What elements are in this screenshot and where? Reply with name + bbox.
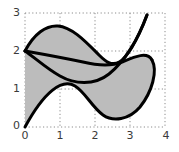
x-tick-label-0: 0 [22, 129, 29, 142]
y-tick-label-3: 3 [13, 6, 20, 19]
x-tick-label-1: 1 [57, 129, 64, 142]
y-tick-label-0: 0 [13, 119, 20, 132]
y-tick-labels: 3 2 1 0 [13, 6, 20, 132]
plot-root: 0 1 2 3 4 3 2 1 0 [0, 0, 179, 152]
x-tick-label-3: 3 [127, 129, 134, 142]
x-tick-label-2: 2 [92, 129, 99, 142]
x-tick-label-4: 4 [163, 129, 170, 142]
plot-figure: 0 1 2 3 4 3 2 1 0 [0, 0, 179, 152]
y-tick-label-2: 2 [13, 44, 20, 57]
y-tick-label-1: 1 [13, 82, 20, 95]
x-tick-labels: 0 1 2 3 4 [22, 129, 170, 142]
